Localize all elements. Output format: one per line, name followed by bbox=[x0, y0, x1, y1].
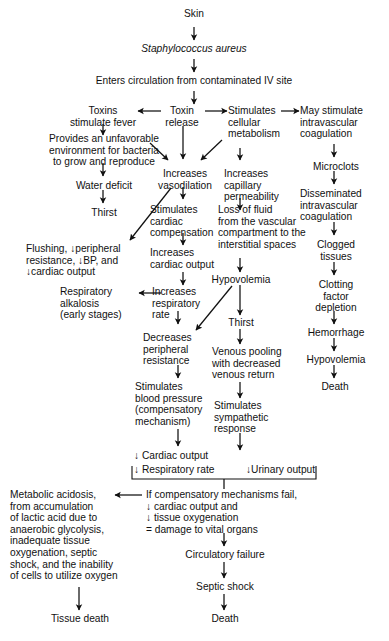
edge-cellular-vaso bbox=[201, 140, 222, 160]
node-decreased-respiratory-rate: ↓ Respiratory rate bbox=[134, 464, 252, 476]
node-enters-circulation: Enters circulation from contaminated IV … bbox=[54, 75, 334, 87]
node-stimulates-blood-pressure: Stimulates blood pressure (compensatory … bbox=[135, 381, 225, 427]
node-tissue-death: Tissue death bbox=[30, 613, 130, 625]
node-decreases-peripheral-resistance: Decreases peripheral resistance bbox=[143, 332, 215, 367]
node-toxins-stimulate-fever: Toxins stimulate fever bbox=[48, 105, 158, 128]
node-stimulates-cellular-metabolism: Stimulates cellular metabolism bbox=[228, 105, 298, 140]
node-decreased-cardiac-output: ↓ Cardiac output bbox=[134, 450, 244, 462]
node-stimulates-cardiac-compensation: Stimulates cardiac compensation bbox=[150, 204, 222, 239]
node-hypovolemia-upper: Hypovolemia bbox=[206, 274, 276, 286]
node-death-right-column: Death bbox=[306, 381, 364, 393]
node-septic-shock: Septic shock bbox=[182, 581, 268, 593]
node-loss-of-fluid-vascular: Loss of fluid from the vascular compartm… bbox=[218, 204, 310, 250]
node-toxin-release: Toxin release bbox=[158, 105, 206, 128]
node-disseminated-intravascular-coagulation: Disseminated intravascular coagulation bbox=[300, 188, 386, 223]
node-metabolic-acidosis: Metabolic acidosis, from accumulation of… bbox=[10, 489, 136, 582]
node-clogged-tissues: Clogged tissues bbox=[302, 239, 370, 262]
node-increases-cardiac-output: Increases cardiac output bbox=[150, 247, 228, 270]
node-venous-pooling: Venous pooling with decreased venous ret… bbox=[212, 346, 298, 381]
node-increases-respiratory-rate: Increases respiratory rate bbox=[152, 286, 218, 321]
node-circulatory-failure: Circulatory failure bbox=[170, 549, 280, 561]
node-thirst-upper: Thirst bbox=[69, 207, 139, 219]
node-may-stimulate-intravascular-coagulation: May stimulate intravascular coagulation bbox=[300, 105, 384, 140]
node-clotting-factor-depletion: Clotting factor depletion bbox=[304, 279, 368, 314]
node-hypovolemia-lower: Hypovolemia bbox=[296, 354, 376, 366]
node-death-bottom: Death bbox=[196, 613, 254, 625]
node-provides-unfavorable-environment: Provides an unfavorable environment for … bbox=[20, 133, 188, 168]
node-respiratory-alkalosis: Respiratory alkalosis (early stages) bbox=[60, 286, 140, 321]
node-stimulates-sympathetic-response: Stimulates sympathetic response bbox=[214, 400, 286, 435]
node-decreased-urinary-output: ↓Urinary output bbox=[246, 464, 342, 476]
flowchart-canvas: Skin Staphylococcus aureus Enters circul… bbox=[0, 0, 389, 641]
node-hemorrhage: Hemorrhage bbox=[298, 327, 374, 339]
node-flushing-decreased-bp: Flushing, ↓peripheral resistance, ↓BP, a… bbox=[26, 243, 154, 278]
node-increases-vasodilation: Increases vasodilation bbox=[146, 168, 224, 191]
node-staphylococcus-aureus: Staphylococcus aureus bbox=[122, 43, 266, 55]
node-skin: Skin bbox=[164, 8, 224, 20]
node-microclots: Microclots bbox=[302, 161, 370, 173]
node-increases-capillary-permeability: Increases capillary permeability bbox=[224, 168, 294, 203]
node-if-compensatory-mechanisms-fail: If compensatory mechanisms fail, ↓ cardi… bbox=[146, 489, 342, 535]
node-thirst-lower: Thirst bbox=[210, 317, 272, 329]
node-water-deficit: Water deficit bbox=[56, 180, 152, 192]
